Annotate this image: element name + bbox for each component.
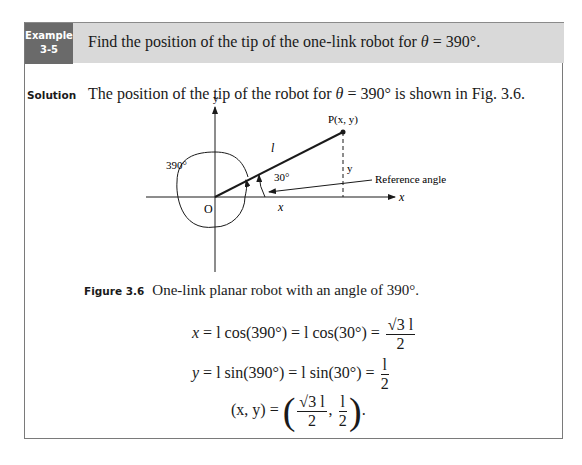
equation-x: x = l cos(390°) = l cos(30°) = √3 l2: [192, 316, 417, 353]
caption-number: Figure 3.6: [84, 285, 144, 297]
caption-text: One-link planar robot with an angle of 3…: [152, 282, 419, 298]
fraction: l2: [339, 393, 347, 430]
denominator: 2: [381, 375, 389, 393]
link-label: l: [271, 141, 275, 155]
angle-30-label: 30°: [274, 171, 289, 183]
period: .: [362, 401, 366, 418]
numerator: l: [381, 356, 389, 375]
separator: ,: [329, 401, 337, 418]
numerator: √3 l: [386, 316, 415, 335]
eq-body: = l cos(390°) = l cos(30°) =: [199, 324, 384, 341]
eq-body: = l sin(390°) = l sin(30°) =: [199, 364, 378, 381]
equation-y: y = l sin(390°) = l sin(30°) = l2: [192, 356, 391, 393]
numerator: l: [339, 393, 347, 412]
robot-figure: y x O P(x, y) l 390° 30° x y Reference a…: [25, 22, 564, 322]
angle-390-arc: [177, 152, 248, 227]
right-paren: ): [349, 390, 362, 432]
origin-label: O: [204, 202, 213, 216]
figure-caption: Figure 3.6One-link planar robot with an …: [84, 282, 419, 299]
fraction: √3 l2: [297, 393, 326, 430]
reference-angle-label: Reference angle: [375, 173, 446, 185]
denominator: 2: [297, 412, 326, 430]
angle-30-arc: [259, 175, 265, 197]
x-component-label: x: [277, 200, 284, 214]
x-axis-label: x: [398, 190, 405, 204]
point-label: P(x, y): [328, 113, 358, 126]
robot-link: [215, 132, 343, 197]
y-component-label: y: [347, 162, 353, 174]
left-paren: (: [283, 390, 296, 432]
fraction: l2: [381, 356, 389, 393]
equation-xy: (x, y) = (√3 l2, l2).: [231, 392, 366, 430]
eq-lhs: (x, y) =: [231, 401, 283, 418]
denominator: 2: [386, 335, 415, 353]
fraction: √3 l2: [386, 316, 415, 353]
y-axis-label: y: [213, 92, 219, 104]
example-box: Example 3-5 Find the position of the tip…: [24, 22, 563, 439]
denominator: 2: [339, 412, 347, 430]
angle-390-label: 390°: [166, 159, 187, 171]
numerator: √3 l: [297, 393, 326, 412]
